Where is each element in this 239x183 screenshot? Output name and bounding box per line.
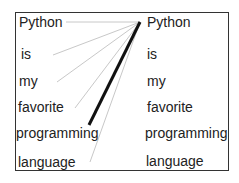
right-token-4: programming (145, 125, 227, 141)
right-token-0: Python (147, 14, 191, 30)
right-token-3: favorite (147, 99, 193, 115)
right-token-2: my (147, 73, 166, 89)
left-token-1: is (21, 46, 31, 62)
right-token-1: is (147, 46, 157, 62)
link-programming (89, 22, 140, 125)
left-token-3: favorite (18, 99, 64, 115)
left-token-0: Python (19, 14, 63, 30)
link-my (57, 22, 140, 82)
right-token-5: language (146, 153, 204, 169)
left-token-4: programming (16, 125, 98, 141)
link-language (90, 22, 140, 162)
left-token-2: my (19, 73, 38, 89)
link-favorite (75, 22, 140, 108)
left-token-5: language (18, 154, 76, 170)
